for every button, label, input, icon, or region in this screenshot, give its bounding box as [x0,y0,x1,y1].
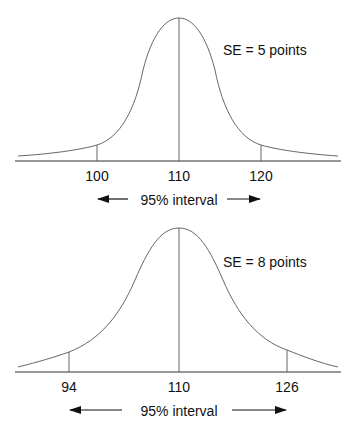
panel-se5: SE = 5 points 100 110 120 95% interval [15,18,341,208]
tick-label-126: 126 [275,379,299,395]
se-label: SE = 8 points [223,254,307,270]
se-label: SE = 5 points [223,42,307,58]
diagram-canvas: SE = 5 points 100 110 120 95% interval S… [0,0,353,427]
distribution-curve [18,228,338,367]
interval-label: 95% interval [140,192,217,208]
tick-label-120: 120 [249,168,273,184]
panel-se8: SE = 8 points 94 110 126 95% interval [15,228,341,419]
tick-label-100: 100 [85,168,109,184]
distribution-curve [18,18,338,156]
tick-label-94: 94 [61,379,77,395]
tick-label-110: 110 [168,168,191,184]
tick-label-110: 110 [168,379,191,395]
interval-label: 95% interval [140,403,217,419]
